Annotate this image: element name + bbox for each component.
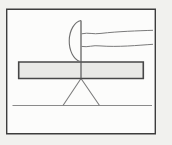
- lever-drawing-svg: [0, 0, 172, 145]
- lever-illustration: [0, 0, 172, 145]
